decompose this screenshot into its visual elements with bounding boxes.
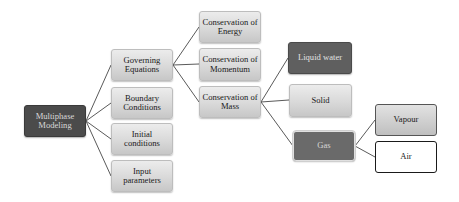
- node-label: Boundary Conditions: [114, 94, 170, 113]
- node-label: Air: [400, 152, 411, 162]
- edge-gas-vapour: [355, 120, 375, 146]
- node-governing-equations: Governing Equations: [111, 49, 173, 81]
- node-air: Air: [375, 141, 437, 173]
- node-label: Vapour: [394, 115, 419, 125]
- node-liquid-water: Liquid water: [288, 42, 352, 74]
- node-multiphase-modeling: Multiphase Modeling: [24, 105, 86, 137]
- node-input-parameters: Input parameters: [111, 160, 173, 192]
- node-gas: Gas: [293, 131, 355, 161]
- node-label: Solid: [311, 96, 329, 106]
- node-label: Gas: [317, 141, 330, 151]
- edge-multiphase-input: [86, 121, 111, 176]
- node-label: Initial conditions: [114, 130, 170, 149]
- edge-governing-mass: [173, 65, 199, 102]
- node-label: Input parameters: [114, 167, 170, 186]
- node-vapour: Vapour: [375, 104, 437, 136]
- edge-governing-energy: [173, 27, 199, 65]
- node-boundary-conditions: Boundary Conditions: [111, 87, 173, 119]
- edge-mass-solid: [261, 100, 289, 102]
- node-conservation-mass: Conservation of Mass: [199, 86, 261, 118]
- node-solid: Solid: [289, 84, 352, 117]
- edge-governing-momentum: [173, 64, 199, 65]
- node-label: Conservation of Mass: [202, 93, 258, 112]
- edge-gas-air: [355, 146, 375, 157]
- node-label: Conservation of Energy: [202, 18, 258, 37]
- node-initial-conditions: Initial conditions: [111, 123, 173, 155]
- node-conservation-momentum: Conservation of Momentum: [199, 48, 261, 81]
- multiphase-modeling-diagram: Multiphase Modeling Governing Equations …: [0, 0, 459, 202]
- node-label: Liquid water: [298, 53, 342, 63]
- node-conservation-energy: Conservation of Energy: [199, 11, 261, 43]
- node-label: Conservation of Momentum: [202, 55, 258, 74]
- node-label: Governing Equations: [114, 56, 170, 75]
- node-label: Multiphase Modeling: [27, 112, 83, 131]
- edge-mass-liquid: [261, 58, 288, 102]
